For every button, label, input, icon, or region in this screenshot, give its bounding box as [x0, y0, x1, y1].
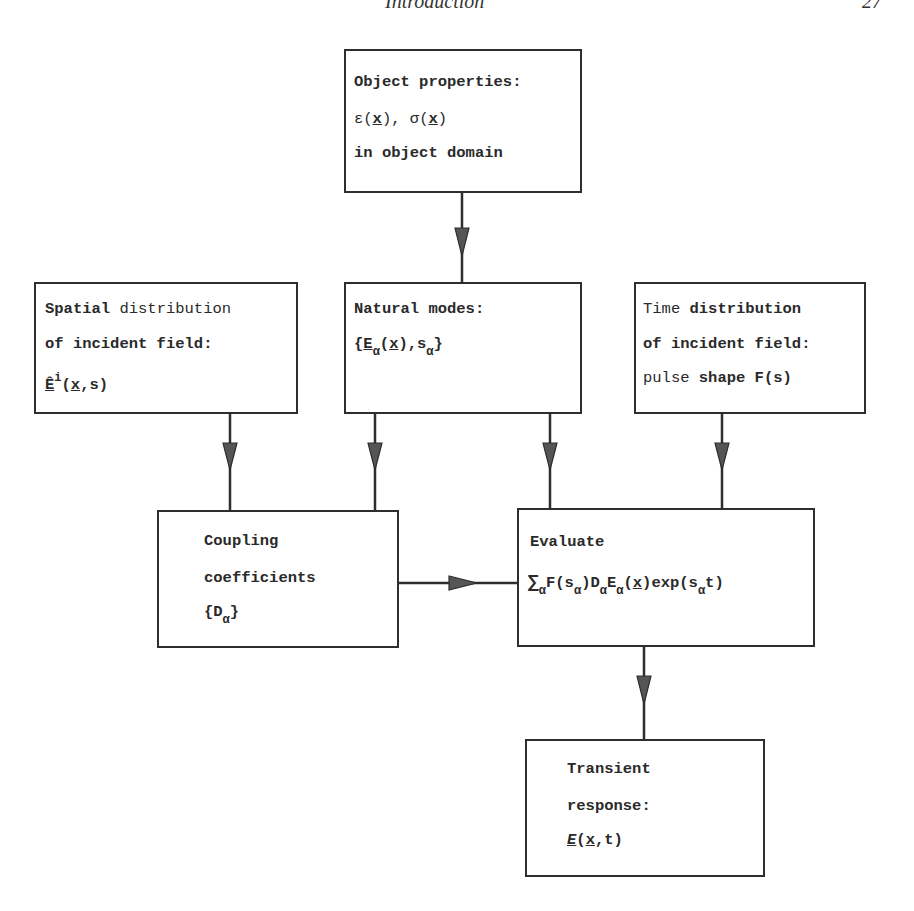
arrow-down-icon: [715, 443, 729, 470]
arrow-right-icon: [449, 576, 477, 590]
coupling-coefficients-box: Coupling coefficients {Dα}: [157, 510, 399, 648]
arrow-down-icon: [637, 676, 651, 704]
object-properties-title: Object properties:: [354, 72, 521, 92]
object-properties-box: Object properties: ε(x), σ(x) in object …: [344, 49, 582, 193]
time-distribution-box: Time distribution of incident field: pul…: [634, 282, 866, 414]
object-properties-domain: in object domain: [354, 143, 503, 163]
evaluate-title: Evaluate: [530, 532, 604, 552]
time-pulse-shape: pulse shape F(s): [643, 368, 792, 388]
object-properties-formula: ε(x), σ(x): [354, 109, 447, 129]
arrow-down-icon: [368, 443, 382, 470]
time-subtitle: of incident field:: [643, 334, 810, 354]
evaluate-box: Evaluate ∑αF(sα)DαEα(x)exp(sαt): [517, 508, 815, 647]
natural-modes-box: Natural modes: {Eα(x),sα}: [344, 282, 582, 414]
coupling-subtitle: coefficients: [204, 568, 316, 588]
arrow-down-icon: [455, 228, 469, 256]
coupling-formula: {Dα}: [204, 602, 239, 630]
coupling-title: Coupling: [204, 531, 278, 551]
arrow-down-icon: [223, 443, 237, 470]
natural-modes-title: Natural modes:: [354, 299, 484, 319]
transient-response-box: Transient response: E(x,t): [525, 739, 765, 877]
transient-subtitle: response:: [567, 796, 651, 816]
natural-modes-formula: {Eα(x),sα}: [354, 334, 443, 362]
spatial-subtitle: of incident field:: [45, 334, 212, 354]
spatial-title: Spatial distribution: [45, 299, 231, 319]
transient-title: Transient: [567, 759, 651, 779]
spatial-formula: Êi(x,s): [45, 368, 108, 395]
arrow-down-icon: [543, 443, 557, 470]
spatial-distribution-box: Spatial distribution of incident field: …: [34, 282, 298, 414]
transient-formula: E(x,t): [567, 830, 623, 850]
evaluate-formula: ∑αF(sα)DαEα(x)exp(sαt): [528, 572, 724, 601]
time-title: Time distribution: [643, 299, 801, 319]
